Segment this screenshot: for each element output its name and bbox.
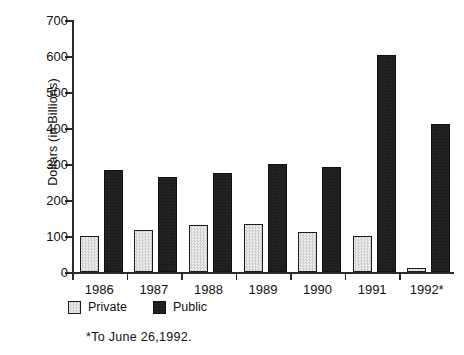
bar-public-1992star <box>431 124 450 272</box>
y-axis-line <box>72 20 74 272</box>
legend-item-private: Private <box>68 300 127 314</box>
y-tick-label: 0 <box>22 266 68 279</box>
y-tick-label: 500 <box>22 86 68 99</box>
legend-item-public: Public <box>153 300 207 314</box>
x-tick-label: 1990 <box>288 282 348 297</box>
y-tick-label: 600 <box>22 50 68 63</box>
legend-label-public: Public <box>173 300 207 314</box>
x-tick-label: 1991 <box>342 282 402 297</box>
bar-public-1986 <box>104 170 123 272</box>
bar-private-1991 <box>353 236 372 272</box>
y-tick-label: 700 <box>22 14 68 27</box>
y-tick-label: 200 <box>22 194 68 207</box>
x-tick-label: 1992* <box>397 282 457 297</box>
legend-label-private: Private <box>88 300 127 314</box>
x-tick-mark <box>181 272 183 280</box>
x-tick-label: 1987 <box>124 282 184 297</box>
y-tick-label: 100 <box>22 230 68 243</box>
y-tick-label: 400 <box>22 122 68 135</box>
bar-public-1990 <box>322 167 341 272</box>
bar-private-1992star <box>407 268 426 272</box>
bar-private-1986 <box>80 236 99 272</box>
x-tick-label: 1986 <box>69 282 129 297</box>
bar-chart: Dollars (in Billions) 010020030040050060… <box>0 0 464 355</box>
bar-public-1987 <box>158 177 177 272</box>
y-tick-label: 300 <box>22 158 68 171</box>
bar-private-1987 <box>134 230 153 272</box>
bar-private-1988 <box>189 225 208 272</box>
x-tick-label: 1988 <box>178 282 238 297</box>
bar-private-1990 <box>298 232 317 272</box>
x-tick-mark <box>127 272 129 280</box>
plot-area: 0100200300400500600700 19861987198819891… <box>72 20 454 272</box>
chart-legend: Private Public <box>68 300 207 314</box>
bar-public-1989 <box>268 164 287 272</box>
bar-public-1988 <box>213 173 232 272</box>
x-axis-line <box>72 272 454 274</box>
chart-footnote: *To June 26,1992. <box>86 330 192 344</box>
bar-private-1989 <box>244 224 263 272</box>
legend-swatch-private-icon <box>68 301 81 314</box>
x-tick-mark <box>236 272 238 280</box>
x-tick-mark <box>399 272 401 280</box>
legend-swatch-public-icon <box>153 301 166 314</box>
x-tick-mark <box>345 272 347 280</box>
bar-public-1991 <box>377 55 396 272</box>
x-tick-mark <box>72 272 74 280</box>
x-tick-mark <box>290 272 292 280</box>
x-tick-label: 1989 <box>233 282 293 297</box>
